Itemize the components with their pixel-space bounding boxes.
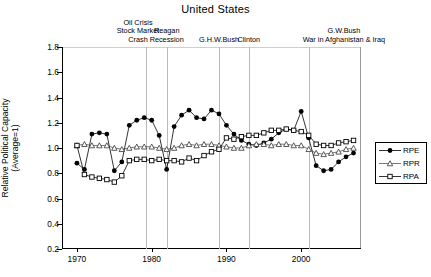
x-tick-label-1970: 1970 [68, 254, 87, 264]
data-point-RPE-1988 [209, 108, 214, 113]
data-point-RPR-2002 [313, 150, 318, 155]
data-point-RPE-1986 [194, 115, 199, 120]
annotation-reagan-recession-line2: Recession [150, 36, 184, 44]
data-point-RPA-2003 [321, 143, 325, 147]
data-point-RPR-1971 [82, 142, 87, 147]
data-point-RPA-1990 [224, 136, 228, 140]
x-tick-label-2000: 2000 [292, 254, 311, 264]
series-line-RPA [77, 129, 354, 182]
data-point-RPE-1972 [90, 132, 95, 137]
chart-title: United States [0, 3, 431, 15]
legend-item-RPA: RPA [376, 171, 426, 182]
x-tick-label-1980: 1980 [142, 254, 161, 264]
data-point-RPA-1992 [239, 134, 243, 138]
data-point-RPA-1980 [150, 158, 154, 162]
data-point-RPA-1984 [179, 160, 183, 164]
data-point-RPA-1982 [164, 158, 168, 162]
data-point-RPA-1996 [269, 128, 273, 132]
data-point-RPE-1978 [134, 118, 139, 123]
x-tick-label-1990: 1990 [217, 254, 236, 264]
data-point-RPA-1974 [105, 177, 109, 181]
legend-label-RPR: RPR [403, 158, 420, 169]
annotation-ghw-bush: G.H.W.Bush [199, 36, 239, 44]
data-point-RPE-1974 [104, 132, 109, 137]
annotation-ghw-bush-line1: G.H.W.Bush [199, 36, 239, 44]
data-point-RPR-1975 [112, 145, 117, 150]
data-point-RPA-1978 [135, 157, 139, 161]
data-point-RPA-1999 [292, 128, 296, 132]
data-point-RPE-2006 [344, 154, 349, 159]
data-point-RPE-1979 [142, 115, 147, 120]
data-point-RPE-1991 [232, 132, 237, 137]
data-point-RPE-2005 [336, 159, 341, 164]
data-point-RPA-1970 [75, 143, 79, 147]
data-point-RPE-2003 [321, 168, 326, 173]
data-point-RPA-2004 [329, 143, 333, 147]
y-axis-title-line2: (Average=1) [10, 124, 20, 171]
legend-label-RPA: RPA [403, 171, 419, 182]
data-point-RPE-1984 [179, 113, 184, 118]
legend-item-RPE: RPE [376, 145, 426, 156]
data-point-RPA-1987 [202, 153, 206, 157]
data-point-RPA-1997 [277, 128, 281, 132]
data-point-RPE-2007 [351, 151, 356, 156]
data-point-RPA-1983 [172, 158, 176, 162]
data-point-RPE-1976 [119, 159, 124, 164]
data-point-RPE-1981 [157, 133, 162, 138]
chart-legend: RPERPRRPA [375, 142, 427, 184]
data-point-RPA-2005 [336, 141, 340, 145]
data-point-RPA-1972 [90, 175, 94, 179]
data-point-RPA-1977 [127, 158, 131, 162]
data-point-RPE-1977 [127, 123, 132, 128]
data-point-RPE-1985 [187, 108, 192, 113]
y-tick-label-0.6: 0.6 [47, 194, 59, 204]
data-point-RPA-1986 [194, 158, 198, 162]
data-point-RPE-1973 [97, 130, 102, 135]
data-point-RPE-1982 [164, 167, 169, 172]
legend-marker-triangle-icon [378, 158, 402, 169]
data-point-RPA-1994 [254, 133, 258, 137]
data-point-RPA-1971 [82, 172, 86, 176]
y-axis-title: Relative Political Capacity (Average=1) [0, 73, 20, 223]
data-point-RPE-1990 [224, 123, 229, 128]
data-point-RPA-1991 [232, 137, 236, 141]
data-point-RPA-1993 [247, 133, 251, 137]
annotation-clinton: Clinton [237, 36, 260, 44]
data-point-RPE-2002 [314, 163, 319, 168]
data-point-RPE-2004 [329, 167, 334, 172]
data-point-RPA-2006 [344, 139, 348, 143]
annotation-reagan-recession: ReaganRecession [150, 27, 184, 44]
data-point-RPE-1996 [269, 137, 274, 142]
data-point-RPR-1983 [171, 145, 176, 150]
y-tick-label-1.2: 1.2 [47, 118, 59, 128]
data-point-RPE-1970 [75, 161, 80, 166]
data-point-RPA-1988 [209, 150, 213, 154]
data-point-RPA-1975 [112, 180, 116, 184]
data-point-RPE-1989 [217, 112, 222, 117]
data-point-RPA-1981 [157, 157, 161, 161]
data-point-RPA-2000 [299, 129, 303, 133]
y-tick-label-1.6: 1.6 [47, 67, 59, 77]
data-point-RPA-2007 [351, 138, 355, 142]
y-tick-label-1.0: 1.0 [47, 143, 59, 153]
y-tick-label-0.4: 0.4 [47, 219, 59, 229]
data-point-RPA-1985 [187, 156, 191, 160]
data-point-RPA-2002 [314, 142, 318, 146]
data-point-RPA-2001 [306, 133, 310, 137]
legend-marker-filled-circle-icon [378, 145, 402, 156]
data-point-RPR-2005 [336, 149, 341, 154]
data-point-RPR-2007 [351, 145, 356, 150]
series-line-RPE [77, 110, 354, 171]
data-point-RPE-1975 [112, 168, 117, 173]
data-point-RPR-1985 [186, 142, 191, 147]
data-point-RPA-1995 [262, 131, 266, 135]
chart-figure: United States Oil CrisisStock MarketCras… [0, 0, 431, 277]
data-point-RPE-2000 [299, 109, 304, 114]
data-point-RPA-1976 [120, 174, 124, 178]
data-point-RPE-1987 [202, 117, 207, 122]
data-point-RPA-1998 [284, 127, 288, 131]
plot-area: 0.20.40.60.81.01.21.41.61.8 197019801990… [62, 47, 361, 249]
data-point-RPR-2001 [306, 147, 311, 152]
data-point-RPA-1989 [217, 147, 221, 151]
y-axis-title-line1: Relative Political Capacity [0, 99, 10, 198]
